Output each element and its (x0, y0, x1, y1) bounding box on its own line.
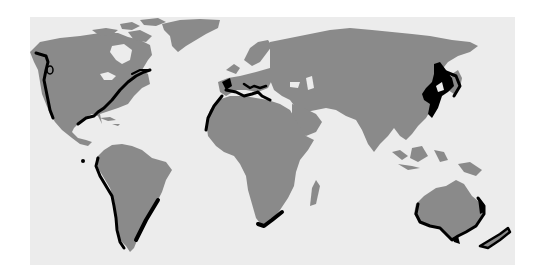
continent-new-zealand (480, 228, 510, 248)
continent-south-america (96, 144, 172, 252)
world-map (0, 0, 542, 280)
continent-north-america (30, 18, 220, 146)
continent-australia (414, 180, 484, 240)
